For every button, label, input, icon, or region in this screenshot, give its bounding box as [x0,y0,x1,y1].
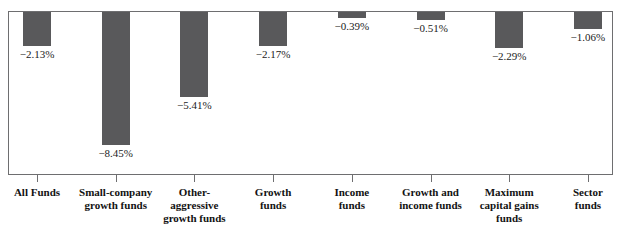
x-axis-tick-0 [37,175,38,182]
x-axis-tick-1 [116,175,117,182]
x-axis-tick-4 [352,175,353,182]
x-axis-tick-2 [194,175,195,182]
x-axis-tick-5 [431,175,432,182]
x-axis-tick-3 [273,175,274,182]
category-label-line: growth funds [146,212,242,225]
plot-frame [8,11,613,175]
x-axis-tick-6 [509,175,510,182]
category-label-line: Sector [540,186,622,199]
category-label-line: funds [461,212,557,225]
bar-chart-figure: −2.13%−8.45%−5.41%−2.17%−0.39%−0.51%−2.2… [0,0,622,232]
category-label-7: Sectorfunds [540,186,622,212]
category-label-line: funds [540,199,622,212]
x-axis-tick-7 [588,175,589,182]
